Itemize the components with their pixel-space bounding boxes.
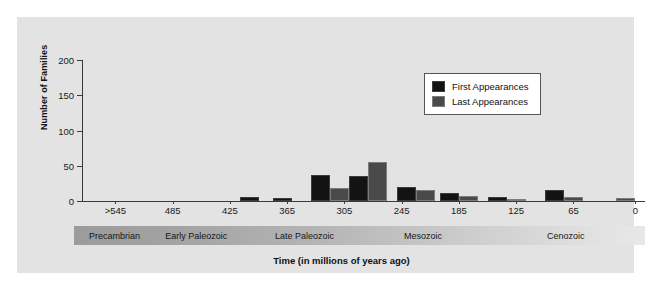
x-tick-mark xyxy=(573,201,574,204)
era-label: Mesozoic xyxy=(404,231,442,241)
y-tick-label: 150 xyxy=(58,90,74,101)
bar-last-appearances xyxy=(330,188,349,201)
x-axis-line xyxy=(82,201,645,202)
bar-first-appearances xyxy=(440,193,459,201)
legend-item-last: Last Appearances xyxy=(432,94,529,109)
y-tick-mark xyxy=(77,131,82,132)
x-tick-label: 365 xyxy=(279,205,295,216)
bar-last-appearances xyxy=(368,162,387,201)
y-tick-label: 100 xyxy=(58,125,74,136)
era-label: Early Paleozoic xyxy=(165,231,227,241)
x-tick-mark xyxy=(635,201,636,204)
y-tick-label: 200 xyxy=(58,55,74,66)
x-tick-label: >545 xyxy=(105,205,126,216)
plot-area: 050100150200 xyxy=(82,60,645,201)
x-tick-label: 125 xyxy=(508,205,524,216)
x-tick-label: 0 xyxy=(633,205,638,216)
x-tick-mark xyxy=(230,201,231,204)
geologic-era-band: PrecambrianEarly PaleozoicLate Paleozoic… xyxy=(74,226,645,245)
bar-first-appearances xyxy=(488,197,507,201)
legend-item-first: First Appearances xyxy=(432,79,529,94)
y-axis-title: Number of Families xyxy=(39,45,49,130)
era-label: Cenozoic xyxy=(547,231,585,241)
legend-label: Last Appearances xyxy=(452,96,528,107)
bar-first-appearances xyxy=(240,197,259,201)
x-tick-label: 485 xyxy=(165,205,181,216)
x-tick-mark xyxy=(402,201,403,204)
legend-swatch-first xyxy=(432,81,445,92)
y-tick-mark xyxy=(77,95,82,96)
bar-first-appearances xyxy=(349,176,368,201)
x-tick-mark xyxy=(115,201,116,204)
x-tick-mark xyxy=(459,201,460,204)
y-tick-mark xyxy=(77,60,82,61)
y-tick-label: 50 xyxy=(63,160,74,171)
era-label: Late Paleozoic xyxy=(275,231,334,241)
x-tick-label: 185 xyxy=(451,205,467,216)
bar-last-appearances xyxy=(416,190,435,201)
bar-first-appearances xyxy=(397,187,416,201)
x-tick-mark xyxy=(173,201,174,204)
x-tick-label: 245 xyxy=(394,205,410,216)
bar-first-appearances xyxy=(273,198,292,201)
y-tick-mark xyxy=(77,166,82,167)
bar-first-appearances xyxy=(311,175,330,201)
chart-legend: First AppearancesLast Appearances xyxy=(424,73,541,115)
x-tick-label: 305 xyxy=(336,205,352,216)
x-tick-mark xyxy=(344,201,345,204)
bar-first-appearances xyxy=(545,190,564,201)
era-label: Precambrian xyxy=(89,231,140,241)
x-tick-label: 425 xyxy=(222,205,238,216)
legend-label: First Appearances xyxy=(452,81,529,92)
x-tick-labels: >545485425365305245185125650 xyxy=(82,204,645,220)
legend-swatch-last xyxy=(432,96,445,107)
x-tick-mark xyxy=(287,201,288,204)
y-tick-label: 0 xyxy=(69,196,74,207)
chart-panel: Number of Families 050100150200 >5454854… xyxy=(17,17,634,273)
x-tick-label: 65 xyxy=(568,205,579,216)
x-axis-title: Time (in millions of years ago) xyxy=(17,255,649,266)
chart-figure: Number of Families 050100150200 >5454854… xyxy=(0,0,649,290)
y-axis-line xyxy=(82,60,83,202)
bar-last-appearances xyxy=(459,196,478,201)
y-tick-mark xyxy=(77,201,82,202)
x-tick-mark xyxy=(516,201,517,204)
bar-last-appearances xyxy=(616,198,635,201)
